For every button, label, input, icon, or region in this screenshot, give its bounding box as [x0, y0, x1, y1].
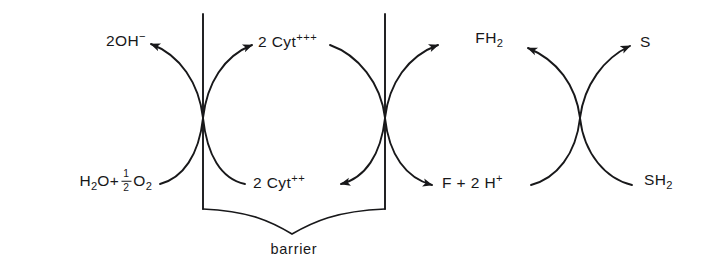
label-flavin-oxidized: F + 2 H+ — [442, 173, 503, 191]
label-substrate-reduced: SH2 — [644, 172, 673, 191]
label-substrate-oxidized: S — [640, 34, 651, 50]
label-hydroxide: 2OH− — [106, 31, 146, 49]
label-barrier: barrier — [271, 242, 318, 257]
arrow-to-substrate-oxidized — [580, 46, 630, 118]
label-cytochrome-reduced: 2 Cyt++ — [253, 173, 305, 191]
arrow-to-flavin-oxidized — [385, 118, 432, 185]
label-cytochrome-oxidized: 2 Cyt+++ — [258, 32, 317, 50]
curve-substrate-reduced-in — [580, 118, 632, 185]
curve-water-in — [160, 118, 203, 184]
one-half-fraction: 12 — [121, 169, 131, 193]
arrow-to-flavin-reduced-2 — [528, 48, 580, 118]
curve-flavin-oxidized-in — [531, 118, 580, 185]
curve-cyt-reduced-in — [203, 118, 245, 184]
label-water-half-oxygen: H2O+12O2 — [79, 170, 152, 194]
arrow-to-hydroxide — [151, 44, 203, 118]
curve-cyt-oxidized-in — [330, 45, 385, 118]
arrow-to-flavin-reduced — [385, 45, 438, 118]
barrier-brace — [203, 209, 385, 234]
label-flavin-reduced: FH2 — [475, 30, 503, 49]
redox-chain-diagram: 2OH− H2O+12O2 2 Cyt+++ 2 Cyt++ FH2 F + 2… — [0, 0, 715, 263]
arrow-to-cyt-oxidized — [203, 45, 252, 118]
arrow-to-cyt-reduced — [341, 118, 385, 184]
